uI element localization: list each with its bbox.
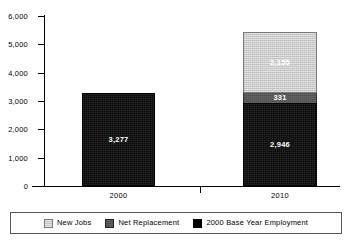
net-replacement-swatch-icon [105, 219, 114, 228]
x-tick-divider [200, 186, 201, 193]
legend-label-net-replacement: Net Replacement [118, 219, 179, 227]
y-tick-label-4000: 4,000 [0, 69, 28, 77]
bar-2010-segment-base[interactable]: 2,946 [243, 103, 317, 187]
y-tick-label-0: 0 [0, 183, 28, 191]
y-tick-label-2000: 2,000 [0, 126, 28, 134]
legend-label-new-jobs: New Jobs [57, 219, 92, 227]
y-tick-5000 [38, 44, 44, 45]
bar-2000-label-base: 3,277 [109, 136, 129, 144]
bar-2010-label-new-jobs: 2,155 [270, 59, 290, 67]
y-tick-1000 [38, 158, 44, 159]
y-tick-0 [38, 186, 44, 187]
bar-2000-segment-base[interactable]: 3,277 [82, 93, 155, 186]
bar-2010-segment-net-replacement[interactable]: 331 [243, 93, 317, 102]
y-tick-label-3000: 3,000 [0, 98, 28, 106]
bar-2010-label-net-replacement: 331 [273, 94, 286, 102]
bar-2000[interactable]: 3,277 [82, 93, 155, 186]
x-category-label-2000: 2000 [82, 191, 155, 200]
bar-2010-segment-new-jobs[interactable]: 2,155 [243, 32, 317, 93]
legend-item-base-year-employment[interactable]: 2000 Base Year Employment [193, 219, 308, 228]
plot-area: 6,000 5,000 4,000 3,000 2,000 1,000 0 3,… [44, 16, 340, 186]
chart-legend: New Jobs Net Replacement 2000 Base Year … [10, 212, 342, 234]
legend-item-new-jobs[interactable]: New Jobs [44, 219, 92, 228]
y-tick-label-5000: 5,000 [0, 41, 28, 49]
legend-item-net-replacement[interactable]: Net Replacement [105, 219, 179, 228]
base-year-swatch-icon [193, 219, 202, 228]
y-tick-3000 [38, 101, 44, 102]
stacked-bar-chart: 6,000 5,000 4,000 3,000 2,000 1,000 0 3,… [0, 0, 353, 251]
x-axis-line [32, 186, 340, 187]
y-tick-label-6000: 6,000 [0, 13, 28, 21]
bar-2010[interactable]: 2,946 331 2,155 [243, 32, 317, 186]
bar-2010-label-base: 2,946 [270, 141, 290, 149]
legend-label-base-year-employment: 2000 Base Year Employment [206, 219, 308, 227]
new-jobs-swatch-icon [44, 219, 53, 228]
y-tick-4000 [38, 73, 44, 74]
y-tick-6000 [38, 16, 44, 17]
x-category-label-2010: 2010 [243, 191, 317, 200]
y-tick-label-1000: 1,000 [0, 154, 28, 162]
y-tick-2000 [38, 129, 44, 130]
